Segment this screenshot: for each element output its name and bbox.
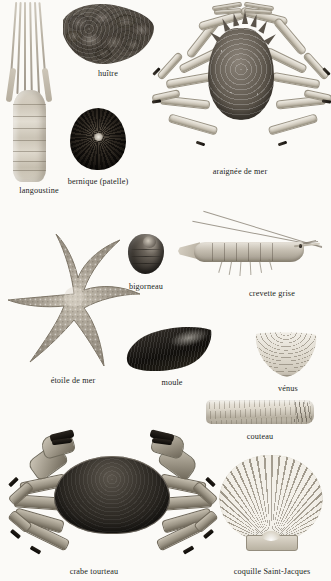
specimen-moule <box>123 325 213 373</box>
etoile-arms <box>8 234 140 366</box>
specimen-crabe-tourteau <box>8 432 216 560</box>
specimen-huitre <box>60 4 156 66</box>
specimen-coquille-saint-jacques <box>216 443 326 551</box>
huitre-texture <box>60 4 156 66</box>
crevette-body <box>194 242 304 262</box>
crabe-carapace-rim <box>54 456 170 534</box>
label-coquille-saint-jacques: coquille Saint-Jacques <box>234 568 311 576</box>
specimen-araignee-de-mer <box>152 0 331 158</box>
label-bigorneau: bigorneau <box>129 283 163 291</box>
label-araignee-de-mer: araignée de mer <box>213 168 268 176</box>
coquille-umbo <box>262 531 280 541</box>
label-huitre: huître <box>98 70 118 78</box>
specimen-crevette-grise <box>178 228 328 290</box>
specimen-venus <box>254 332 318 378</box>
specimen-bernique <box>70 108 126 170</box>
specimen-bigorneau <box>128 234 164 274</box>
label-crabe-tourteau: crabe tourteau <box>70 568 119 576</box>
coquille-fan <box>216 449 326 543</box>
label-etoile-de-mer: étoile de mer <box>51 377 96 385</box>
araignee-carapace <box>208 28 274 120</box>
label-moule: moule <box>161 379 182 387</box>
couteau-end <box>294 402 312 422</box>
specimen-couteau <box>206 400 314 424</box>
bernique-apex <box>94 133 103 141</box>
crevette-eye <box>299 244 303 248</box>
specimen-langoustine <box>6 2 54 180</box>
label-venus: vénus <box>278 385 298 393</box>
seafood-illustration-plate: langoustine huître bernique (patelle) <box>0 0 331 581</box>
label-couteau: couteau <box>247 433 274 441</box>
label-langoustine: langoustine <box>19 187 58 195</box>
venus-shell <box>254 332 318 378</box>
langoustine-body <box>13 90 46 182</box>
label-crevette-grise: crevette grise <box>249 290 295 298</box>
label-bernique: bernique (patelle) <box>68 178 129 186</box>
